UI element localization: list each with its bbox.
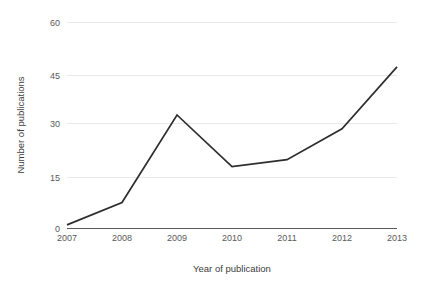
x-tick-label-2009: 2009 (167, 233, 187, 243)
y-tick-label-60: 60 (50, 18, 60, 28)
x-tick-label-2012: 2012 (332, 233, 352, 243)
x-axis-title: Year of publication (193, 263, 271, 274)
y-tick-label-30: 30 (50, 119, 60, 129)
x-tick-label-2010: 2010 (222, 233, 242, 243)
publications-line-chart: 60 45 30 15 0 2007 2008 2009 2010 2011 2… (0, 0, 427, 290)
x-tick-label-2013: 2013 (387, 233, 407, 243)
y-tick-label-45: 45 (50, 71, 60, 81)
x-tick-label-2007: 2007 (57, 233, 77, 243)
y-axis-title: Number of publications (15, 76, 26, 173)
y-tick-label-15: 15 (50, 173, 60, 183)
chart-background (0, 0, 427, 290)
x-tick-label-2008: 2008 (112, 233, 132, 243)
x-tick-label-2011: 2011 (277, 233, 296, 243)
y-tick-label-0: 0 (55, 224, 60, 234)
